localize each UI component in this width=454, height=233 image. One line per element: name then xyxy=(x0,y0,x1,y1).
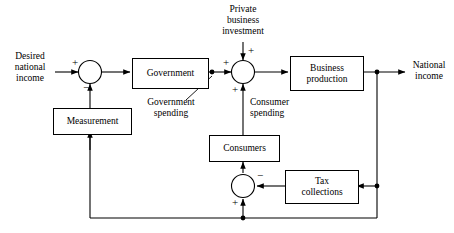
sign-sum-disposable-plus: + xyxy=(232,198,238,207)
block-measurement-label: Measurement xyxy=(67,116,119,127)
block-business-production-label-line2: production xyxy=(306,74,347,85)
sum-demand-circle xyxy=(232,61,255,84)
block-tax-collections[interactable]: Tax collections xyxy=(285,170,359,204)
block-government-label: Government xyxy=(147,68,195,79)
dot-output-branch xyxy=(375,70,380,75)
dot-rail-branch xyxy=(241,216,246,221)
label-consumer-spending-line1: Consumer xyxy=(250,97,310,108)
sign-sum-demand-plus-bottom: + xyxy=(232,85,238,94)
label-national-income-line1: National xyxy=(405,60,453,71)
label-private-business-investment-line1: Private xyxy=(199,4,287,15)
sign-sum-error-plus: + xyxy=(72,58,78,67)
label-consumer-spending-line2: spending xyxy=(250,108,310,119)
label-desired-national-income-line3: income xyxy=(6,73,54,84)
block-tax-collections-label-line2: collections xyxy=(301,187,342,198)
label-private-business-investment-line3: investment xyxy=(199,26,287,37)
sign-sum-demand-plus-top: + xyxy=(248,46,254,55)
block-measurement[interactable]: Measurement xyxy=(53,108,132,135)
block-business-production-label-line1: Business xyxy=(310,63,344,74)
label-government-spending-line1: Government xyxy=(138,97,204,108)
sum-disposable-circle xyxy=(232,175,255,198)
label-desired-national-income-line2: national xyxy=(6,62,54,73)
sign-sum-demand-plus-left: + xyxy=(223,58,229,67)
block-tax-collections-label-line1: Tax xyxy=(315,176,329,187)
label-consumer-spending: Consumer spending xyxy=(250,97,310,119)
block-business-production[interactable]: Business production xyxy=(290,56,364,91)
label-national-income: National income xyxy=(405,60,453,82)
sign-sum-error-minus: − xyxy=(83,83,89,92)
label-government-spending: Government spending xyxy=(138,97,204,119)
block-consumers-label: Consumers xyxy=(223,143,266,154)
label-national-income-line2: income xyxy=(405,71,453,82)
label-desired-national-income-line1: Desired xyxy=(6,51,54,62)
sum-error-circle xyxy=(79,61,102,84)
block-diagram: Government Business production Measureme… xyxy=(0,0,454,233)
label-private-business-investment-line2: business xyxy=(199,15,287,26)
block-government[interactable]: Government xyxy=(132,58,209,89)
label-private-business-investment: Private business investment xyxy=(199,4,287,38)
label-government-spending-line2: spending xyxy=(138,108,204,119)
dot-tax-branch xyxy=(375,184,380,189)
sign-sum-disposable-minus: − xyxy=(257,171,263,180)
block-consumers[interactable]: Consumers xyxy=(209,135,280,162)
dot-government-spending xyxy=(210,70,215,75)
label-desired-national-income: Desired national income xyxy=(6,51,54,85)
